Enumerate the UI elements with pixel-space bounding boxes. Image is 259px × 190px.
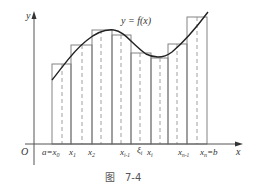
figure-caption-char: 图 xyxy=(105,172,115,183)
svg-text:xn=b: xn=b xyxy=(199,147,218,158)
x-axis-label: x xyxy=(235,146,241,157)
rect-6 xyxy=(151,58,168,144)
rect-2 xyxy=(71,45,92,144)
axes xyxy=(25,16,238,165)
y-axis-label: y xyxy=(25,10,31,21)
y-axis-arrow-icon xyxy=(32,11,37,19)
svg-text:xn-1: xn-1 xyxy=(177,147,190,158)
riemann-rectangles xyxy=(52,17,207,144)
origin-label: O xyxy=(21,146,28,157)
rect-7 xyxy=(168,44,187,144)
sample-point-dashes xyxy=(62,17,197,144)
rect-5 xyxy=(131,53,151,144)
curve-label: y = f(x) xyxy=(120,15,152,27)
svg-text:xi: xi xyxy=(146,147,153,158)
svg-text:a=x0: a=x0 xyxy=(42,147,60,158)
tick-a-x0: a=x xyxy=(42,147,57,157)
tick-labels: a=x0 x1 x2 xi-1 ξi xi xn-1 xn=b xyxy=(42,145,218,158)
svg-text:xi-1: xi-1 xyxy=(119,147,130,158)
svg-text:x2: x2 xyxy=(87,147,95,158)
riemann-sum-diagram: y x O y = f(x) a=x0 x1 x2 xi-1 ξi xi xn-… xyxy=(0,0,259,190)
rect-3 xyxy=(92,30,112,144)
svg-text:ξi: ξi xyxy=(137,145,143,156)
figure-caption-number: 7-4 xyxy=(125,172,141,183)
rect-4 xyxy=(112,35,131,144)
svg-text:x1: x1 xyxy=(68,147,76,158)
